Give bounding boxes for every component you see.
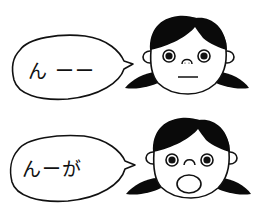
panel-bottom: んーが: [0, 108, 267, 217]
speech-text: ん ーー: [28, 60, 95, 82]
speech-bubble-text-bottom: んーが: [22, 154, 82, 181]
top-illustration: [0, 0, 267, 108]
speech-bubble-text-top: ん ーー: [28, 56, 95, 83]
panel-top: ん ーー: [0, 0, 267, 108]
left-pigtail-icon: [126, 178, 161, 195]
speech-text: んーが: [22, 158, 82, 180]
